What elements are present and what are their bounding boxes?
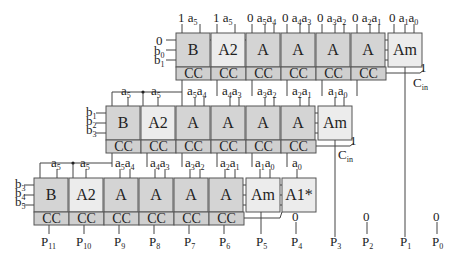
row1-top-input-A3: 0 a3a2 (317, 11, 346, 29)
output-P9: P9 (114, 235, 125, 253)
output-P7: P7 (184, 235, 195, 253)
output-P4: P4 (291, 235, 302, 253)
row2-top-input: a3a2 (257, 84, 277, 102)
block-A: A (211, 115, 245, 131)
row3-top-input: a3a2 (185, 156, 205, 174)
output-P0: P0 (432, 235, 443, 253)
row1-top-input-B: 1 a5 (178, 11, 198, 29)
output-P1: P1 (400, 235, 411, 253)
block-A: A (176, 115, 210, 131)
cc-cell: CC (246, 140, 281, 153)
row2-top-input: a5a4 (187, 84, 207, 102)
block-Am: Am (388, 42, 422, 58)
output-P3: P3 (330, 235, 341, 253)
carry-in-label: Cin (413, 76, 428, 94)
block-A2: A2 (141, 115, 175, 131)
row3-top-input: a5a4 (115, 156, 135, 174)
row1-left-input-b1: b1 (154, 53, 165, 71)
row1-top-input-A1: 0 a5a4 (247, 11, 276, 29)
output-P11: P11 (41, 235, 56, 253)
row3-top-input-A1star: a0 (292, 156, 302, 174)
cc-cell: CC (174, 212, 209, 225)
zero-constant-P4: 0 (292, 210, 299, 223)
block-A: A (174, 187, 208, 203)
row3-left-input-b5: b5 (15, 195, 26, 213)
zero-constant-P0: 0 (433, 210, 440, 223)
block-B: B (106, 115, 140, 131)
cc-cell: CC (211, 140, 246, 153)
cc-cell: CC (281, 67, 316, 80)
block-Am: Am (318, 115, 352, 131)
block-B: B (176, 42, 210, 58)
block-A: A (351, 42, 385, 58)
row2-top-input-Am: a1a0 (328, 84, 348, 102)
output-P5: P5 (256, 235, 267, 253)
block-A1-star: A1* (282, 187, 316, 203)
output-P2: P2 (362, 235, 373, 253)
row2-top-input-A2: a5 (151, 84, 161, 102)
row2-left-input-b3: b3 (86, 123, 97, 141)
cc-cell: CC (246, 67, 281, 80)
block-A: A (246, 115, 280, 131)
cc-cell: CC (209, 212, 244, 225)
cc-cell: CC (106, 140, 141, 153)
block-A2: A2 (211, 42, 245, 58)
cc-cell: CC (176, 140, 211, 153)
row3-top-input-B: a5 (51, 156, 61, 174)
cc-cell: CC (34, 212, 69, 225)
row3-top-input: a2a1 (220, 156, 240, 174)
row1-top-input-A2b: 0 a4a3 (282, 11, 311, 29)
cc-cell: CC (316, 67, 351, 80)
output-P6: P6 (219, 235, 230, 253)
cc-cell: CC (211, 67, 246, 80)
cc-cell: CC (281, 140, 316, 153)
row2-top-input: a4a3 (222, 84, 242, 102)
row3-top-input: a4a3 (150, 156, 170, 174)
row3-top-input-A2: a5 (80, 156, 90, 174)
cc-cell: CC (139, 212, 174, 225)
block-A: A (246, 42, 280, 58)
block-A: A (316, 42, 350, 58)
block-A: A (139, 187, 173, 203)
block-Am: Am (246, 187, 280, 203)
carry-in-value: 1 (420, 61, 427, 74)
carry-in-value: 1 (350, 134, 357, 147)
row1-top-input-A4: 0 a2a1 (352, 11, 381, 29)
cc-cell: CC (176, 67, 211, 80)
row2-top-input: a2a1 (292, 84, 312, 102)
cc-cell: CC (351, 67, 386, 80)
row3-top-input-Am: a1a0 (255, 156, 275, 174)
block-A: A (209, 187, 243, 203)
row1-top-input-Am: 0 a1a0 (389, 11, 418, 29)
cc-cell: CC (104, 212, 139, 225)
cc-cell: CC (141, 140, 176, 153)
row1-top-input-A2: 1 a5 (213, 11, 233, 29)
block-B: B (34, 187, 68, 203)
output-P10: P10 (76, 235, 91, 253)
zero-constant-P2: 0 (363, 210, 370, 223)
carry-in-label: Cin (338, 148, 353, 166)
block-A: A (281, 115, 315, 131)
block-A: A (281, 42, 315, 58)
output-P8: P8 (149, 235, 160, 253)
row2-top-input-B: a5 (121, 84, 131, 102)
block-A: A (104, 187, 138, 203)
cc-cell: CC (69, 212, 104, 225)
block-A2: A2 (69, 187, 103, 203)
